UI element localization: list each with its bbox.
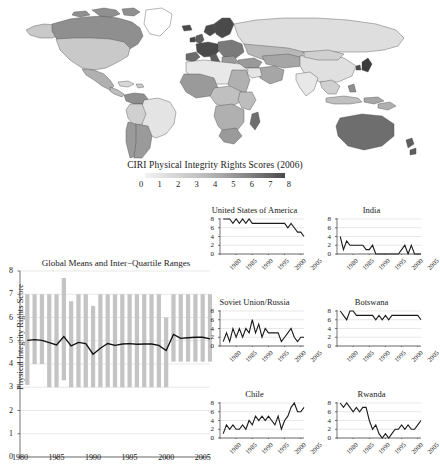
xtick-rwanda-2005: 2005 [426,441,440,455]
panel-title-rwanda: Rwanda [313,389,430,399]
map-legend: CIRI Physical Integrity Rights Scores (2… [0,160,430,205]
big-y-tick-0: 0 [2,452,13,461]
iqr-bar-1989 [84,294,88,387]
xtick-rwanda-2000: 2000 [409,441,423,455]
ytick-chile-6: 6 [204,408,214,416]
iqr-bar-2000 [164,318,168,388]
iqr-bar-1988 [76,294,80,387]
legend-tick-4: 4 [213,179,217,189]
chart-plot-area [16,269,212,459]
legend-tick-1: 1 [157,179,161,189]
ytick-india-0: 0 [321,250,331,258]
xtick-united-states-of-america-1980: 1980 [228,257,242,271]
xtick-india-2000: 2000 [409,257,423,271]
iqr-bar-1982 [32,294,36,364]
legend-tick-6: 6 [250,179,254,189]
legend-tick-8: 8 [287,179,291,189]
panel-india: India02468198019851990199520002005 [313,205,430,295]
xtick-chile-1985: 1985 [244,441,258,455]
big-y-tick-5: 5 [2,336,13,345]
big-y-tick-7: 7 [2,289,13,298]
ytick-chile-8: 8 [204,399,214,407]
xtick-botswana-2005: 2005 [426,349,440,363]
xtick-botswana-1995: 1995 [393,349,407,363]
iqr-bar-1986 [62,278,66,380]
ytick-chile-2: 2 [204,425,214,433]
chart-title: Global Means and Inter−Quartile Ranges [20,258,212,268]
panel-title-botswana: Botswana [313,297,430,307]
iqr-bar-1984 [47,294,51,387]
xtick-soviet-union-russia-1985: 1985 [244,349,258,363]
panel-title-united-states-of-america: United States of America [196,205,313,215]
iqr-bar-1997 [142,294,146,387]
panel-title-chile: Chile [196,389,313,399]
xtick-rwanda-1995: 1995 [393,441,407,455]
ytick-united-states-of-america-0: 0 [204,250,214,258]
panel-chile: Chile02468198019851990199520002005 [196,389,313,476]
plot-chile [218,401,306,439]
xtick-soviet-union-russia-1980: 1980 [228,349,242,363]
big-y-tick-2: 2 [2,406,13,415]
xtick-india-1980: 1980 [345,257,359,271]
legend-title: CIRI Physical Integrity Rights Scores (2… [127,160,303,170]
ytick-botswana-4: 4 [321,325,331,333]
plot-soviet-union-russia [218,309,306,347]
xtick-rwanda-1990: 1990 [377,441,391,455]
legend-tick-7: 7 [268,179,272,189]
ytick-soviet-union-russia-2: 2 [204,333,214,341]
ytick-rwanda-0: 0 [321,434,331,442]
ytick-united-states-of-america-2: 2 [204,241,214,249]
big-x-tick-2000: 2000 [158,453,174,462]
iqr-bar-1983 [40,294,44,364]
plot-rwanda [335,401,423,439]
ytick-rwanda-2: 2 [321,425,331,433]
ytick-india-2: 2 [321,241,331,249]
big-x-tick-1985: 1985 [49,453,65,462]
big-x-tick-1995: 1995 [122,453,138,462]
series-botswana [340,311,421,320]
xtick-soviet-union-russia-1990: 1990 [260,349,274,363]
panel-rwanda: Rwanda02468198019851990199520002005 [313,389,430,476]
xtick-chile-2000: 2000 [292,441,306,455]
ytick-rwanda-8: 8 [321,399,331,407]
legend-tick-2: 2 [176,179,180,189]
iqr-bar-1998 [149,294,153,387]
ytick-chile-4: 4 [204,417,214,425]
xtick-india-1995: 1995 [393,257,407,271]
xtick-india-1985: 1985 [361,257,375,271]
iqr-bar-1992 [106,294,110,387]
ytick-soviet-union-russia-4: 4 [204,325,214,333]
xtick-soviet-union-russia-1995: 1995 [276,349,290,363]
xtick-botswana-1980: 1980 [345,349,359,363]
panel-united-states-of-america: United States of America0246819801985199… [196,205,313,295]
iqr-bar-1991 [98,294,102,387]
ytick-india-6: 6 [321,224,331,232]
legend-tick-5: 5 [231,179,235,189]
xtick-botswana-1990: 1990 [377,349,391,363]
plot-botswana [335,309,423,347]
xtick-united-states-of-america-2000: 2000 [292,257,306,271]
ytick-botswana-0: 0 [321,342,331,350]
ytick-rwanda-4: 4 [321,417,331,425]
plot-india [335,217,423,255]
ytick-botswana-2: 2 [321,333,331,341]
xtick-united-states-of-america-1985: 1985 [244,257,258,271]
ytick-united-states-of-america-6: 6 [204,224,214,232]
iqr-bar-2001 [171,294,175,361]
ytick-india-8: 8 [321,215,331,223]
country-small-multiples: United States of America0246819801985199… [196,205,430,476]
plot-united-states-of-america [218,217,306,255]
big-y-tick-1: 1 [2,429,13,438]
ytick-united-states-of-america-4: 4 [204,233,214,241]
big-x-tick-1980: 1980 [12,453,28,462]
iqr-bar-2002 [179,294,183,361]
ytick-soviet-union-russia-0: 0 [204,342,214,350]
ytick-soviet-union-russia-6: 6 [204,316,214,324]
iqr-bar-1985 [54,294,58,387]
xtick-india-2005: 2005 [426,257,440,271]
ytick-soviet-union-russia-8: 8 [204,307,214,315]
x-axis-ticks: 198019851990199520002005 [16,452,206,466]
ytick-botswana-8: 8 [321,307,331,315]
ytick-botswana-6: 6 [321,316,331,324]
